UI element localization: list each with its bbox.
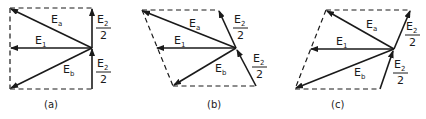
svg-text:2: 2 [104, 20, 108, 28]
e2-half-upper-label-a: E 2 2 [96, 13, 111, 42]
svg-text:1: 1 [42, 41, 46, 49]
svg-text:E: E [63, 63, 70, 76]
svg-text:E: E [406, 20, 413, 33]
svg-text:E: E [174, 34, 181, 47]
svg-text:E: E [189, 17, 196, 30]
eb-label-c: E b [354, 66, 366, 81]
eb-label-b: E b [215, 62, 227, 77]
eb-label-a: E b [63, 63, 75, 78]
svg-text:2: 2 [241, 20, 245, 28]
e1-label-c: E 1 [336, 35, 347, 50]
e2-half-upper-label-c: E 2 2 [405, 20, 420, 49]
e1-label-b: E 1 [174, 34, 185, 49]
svg-text:a: a [373, 25, 377, 33]
svg-text:2: 2 [397, 74, 404, 87]
panel-b: E a E 1 E b E 2 2 E 2 2 (b) [142, 10, 267, 110]
svg-text:E: E [97, 13, 104, 26]
svg-text:b: b [222, 69, 227, 77]
svg-text:b: b [70, 70, 75, 78]
svg-text:a: a [58, 20, 62, 28]
svg-text:1: 1 [343, 42, 347, 50]
svg-text:2: 2 [104, 64, 108, 72]
svg-text:2: 2 [100, 73, 107, 86]
svg-text:2: 2 [256, 68, 263, 81]
svg-text:2: 2 [260, 59, 264, 67]
caption-a: (a) [44, 99, 58, 110]
svg-text:b: b [361, 73, 366, 81]
svg-text:E: E [253, 52, 260, 65]
ea-label-b: E a [189, 17, 200, 32]
e2-half-lower-label-a: E 2 2 [96, 57, 111, 86]
svg-text:E: E [35, 34, 42, 47]
e2-half-lower-label-b: E 2 2 [252, 52, 267, 81]
ea-label-c: E a [366, 18, 377, 33]
svg-text:E: E [394, 58, 401, 71]
panel-c: E a E 1 E b E 2 2 E 2 2 (c) [295, 10, 420, 110]
svg-text:E: E [215, 62, 222, 75]
svg-text:E: E [97, 57, 104, 70]
svg-text:E: E [234, 13, 241, 26]
e2-half-upper-label-b: E 2 2 [233, 13, 248, 42]
ea-label-a: E a [51, 13, 62, 28]
phasor-diagram-figure: E a E 1 E b E 2 2 E 2 2 (a) [0, 0, 426, 119]
svg-text:E: E [366, 18, 373, 31]
svg-text:a: a [196, 24, 200, 32]
svg-text:1: 1 [181, 41, 185, 49]
panel-a: E a E 1 E b E 2 2 E 2 2 (a) [10, 8, 111, 110]
svg-text:E: E [336, 35, 343, 48]
eb-arrow-a [11, 48, 92, 88]
caption-b: (b) [207, 99, 221, 110]
svg-text:E: E [354, 66, 361, 79]
eb-arrow-b [174, 48, 236, 85]
caption-c: (c) [331, 99, 344, 110]
svg-text:2: 2 [409, 36, 416, 49]
eb-arrow-c [296, 49, 394, 88]
svg-text:2: 2 [237, 29, 244, 42]
e2-half-lower-arrow-c [380, 51, 393, 89]
svg-text:E: E [51, 13, 58, 26]
svg-text:2: 2 [401, 65, 405, 73]
svg-text:2: 2 [100, 29, 107, 42]
e1-label-a: E 1 [35, 34, 46, 49]
e2-half-lower-label-c: E 2 2 [393, 58, 408, 87]
svg-text:2: 2 [413, 27, 417, 35]
